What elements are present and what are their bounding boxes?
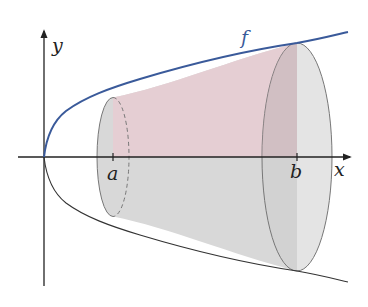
solid-of-revolution-diagram: y x f a b: [0, 0, 368, 307]
function-label: f: [239, 26, 251, 48]
y-axis-label: y: [51, 34, 63, 56]
x-axis-label: x: [334, 158, 345, 180]
upper-bound-label: b: [290, 160, 302, 182]
lower-bound-label: a: [107, 162, 118, 184]
